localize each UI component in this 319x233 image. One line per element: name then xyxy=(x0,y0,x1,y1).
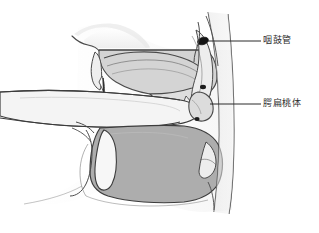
label-eustachian-tube: 咽鼓管 xyxy=(263,35,292,46)
label-palatine-tonsil: 腭扁桃体 xyxy=(263,98,301,109)
